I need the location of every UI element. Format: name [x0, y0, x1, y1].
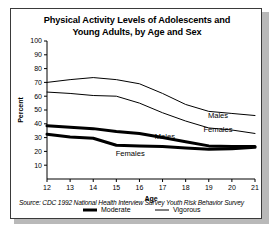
y-axis-tick-label: 50 [34, 106, 42, 113]
annotation-females-vigorous: Females [203, 125, 232, 134]
x-axis-tick-label: 17 [159, 184, 167, 191]
y-axis-label: Percent [17, 96, 24, 122]
y-axis-tick-label: 20 [34, 148, 42, 155]
x-axis-tick-label: 14 [89, 184, 97, 191]
y-axis-tick-label: 80 [34, 65, 42, 72]
x-axis-tick-label: 16 [136, 184, 144, 191]
y-axis-tick-label: 90 [34, 51, 42, 58]
figure-container: Physical Activity Levels of Adolescents … [0, 0, 277, 234]
series-line-males-vigorous [47, 78, 255, 116]
annotation-males-vigorous: Males [208, 111, 228, 120]
x-axis-tick-label: 15 [112, 184, 120, 191]
y-axis-tick-label: 10 [34, 162, 42, 169]
x-axis-tick-label: 12 [43, 184, 51, 191]
legend-label-moderate: Moderate [101, 206, 131, 213]
x-axis: 12131415161718192021 [43, 179, 259, 191]
x-axis-tick-label: 19 [205, 184, 213, 191]
y-axis-tick-label: 30 [34, 134, 42, 141]
x-axis-tick-label: 13 [66, 184, 74, 191]
annotation-males-moderate: Males [155, 132, 175, 141]
y-axis-tick-label: 70 [34, 79, 42, 86]
legend-label-vigorous: Vigorous [173, 206, 201, 214]
x-axis-tick-label: 21 [251, 184, 259, 191]
x-axis-tick-label: 20 [228, 184, 236, 191]
y-axis-tick-label: 100 [30, 37, 42, 44]
y-axis-tick-label: 60 [34, 93, 42, 100]
annotation-females-moderate: Females [116, 149, 145, 158]
chart-plot: 102030405060708090100 121314151617181920… [11, 9, 263, 220]
chart-legend: ModerateVigorous [83, 206, 201, 214]
x-axis-tick-label: 18 [182, 184, 190, 191]
y-axis: 102030405060708090100 [30, 37, 47, 179]
y-axis-tick-label: 40 [34, 120, 42, 127]
chart-panel: Physical Activity Levels of Adolescents … [10, 8, 262, 219]
source-note: Source: CDC 1992 National Health Intervi… [19, 199, 259, 206]
